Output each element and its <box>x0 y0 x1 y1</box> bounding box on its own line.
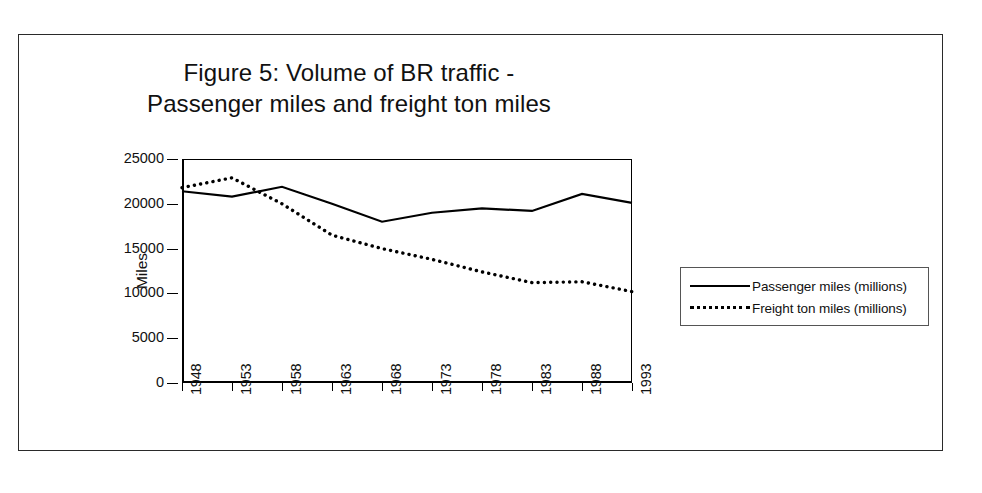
y-axis-tick-label: 15000 <box>124 239 164 258</box>
y-axis-tick-mark <box>167 249 178 250</box>
x-axis-tick-mark <box>332 383 333 391</box>
legend-key-dotted-line-icon <box>690 303 750 313</box>
legend-item-label: Freight ton miles (millions) <box>752 301 907 316</box>
legend: Passenger miles (millions)Freight ton mi… <box>680 267 929 326</box>
figure-border: Figure 5: Volume of BR traffic - Passeng… <box>18 34 943 451</box>
y-axis-tick-label: 5000 <box>132 328 164 347</box>
y-axis-tick-label: 10000 <box>124 283 164 302</box>
series-layer <box>182 159 632 383</box>
series-passenger-miles-line <box>182 187 632 222</box>
chart-title-line-2: Passenger miles and freight ton miles <box>59 88 639 119</box>
legend-item: Passenger miles (millions) <box>681 275 928 297</box>
x-axis-tick-mark <box>532 383 533 391</box>
x-axis-tick-mark <box>282 383 283 391</box>
y-axis-tick-mark <box>167 293 178 294</box>
chart-title: Figure 5: Volume of BR traffic - Passeng… <box>59 57 639 119</box>
y-axis-tick-label: 25000 <box>124 149 164 168</box>
y-axis-tick-mark <box>167 383 178 384</box>
y-axis-tick-label: 20000 <box>124 194 164 213</box>
x-axis-tick-mark <box>232 383 233 391</box>
y-axis-tick-mark <box>167 204 178 205</box>
x-axis-tick-mark <box>582 383 583 391</box>
legend-key-solid-line-icon <box>690 281 750 291</box>
legend-item: Freight ton miles (millions) <box>681 297 928 319</box>
plot-area: Miles 0500010000150002000025000 19481953… <box>164 159 632 387</box>
x-axis-tick-mark <box>182 383 183 391</box>
x-axis-tick-mark <box>632 383 633 391</box>
chart-title-line-1: Figure 5: Volume of BR traffic - <box>59 57 639 88</box>
x-axis-tick-mark <box>382 383 383 391</box>
y-axis-tick-mark <box>167 159 178 160</box>
series-freight-ton-miles-line <box>182 178 632 292</box>
legend-item-label: Passenger miles (millions) <box>752 279 907 294</box>
x-axis-tick-mark <box>482 383 483 391</box>
x-axis-tick-mark <box>432 383 433 391</box>
y-axis-tick-mark <box>167 338 178 339</box>
y-axis-tick-label: 0 <box>156 373 164 392</box>
